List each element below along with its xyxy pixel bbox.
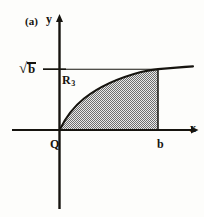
- figure-container: (a) y x √ b R3 Q b: [0, 0, 204, 217]
- region-label-base: R: [62, 73, 71, 87]
- figure-graphic: [0, 0, 204, 217]
- panel-label: (a): [25, 16, 38, 27]
- y-axis: [56, 14, 63, 209]
- origin-label: Q: [50, 138, 59, 150]
- radical-icon: √: [19, 61, 27, 76]
- y-axis-label: y: [46, 13, 52, 25]
- x-tick-label-b: b: [157, 138, 164, 150]
- radical-bar: [27, 62, 36, 64]
- region-label-r3: R3: [62, 74, 75, 88]
- y-tick-label-sqrt-b: √ b: [19, 62, 35, 75]
- region-label-subscript: 3: [71, 79, 75, 88]
- x-axis-label: x: [190, 122, 196, 134]
